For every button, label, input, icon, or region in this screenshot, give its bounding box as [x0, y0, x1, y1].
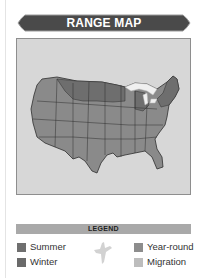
- range-map: [16, 38, 191, 195]
- winter-swatch: [17, 258, 26, 267]
- legend-header: LEGEND: [16, 224, 191, 234]
- us-map-icon: [17, 39, 192, 196]
- bird-in-flight-icon: [90, 240, 114, 266]
- legend-item-migration: Migration: [134, 257, 186, 267]
- summer-swatch: [17, 243, 26, 252]
- migration-swatch: [134, 258, 143, 267]
- legend-label: Summer: [30, 242, 66, 252]
- year-round-swatch: [134, 243, 143, 252]
- range-map-banner: RANGE MAP: [17, 14, 191, 32]
- legend-label: Winter: [30, 257, 57, 267]
- legend-label: Migration: [147, 257, 186, 267]
- legend-label: Year-round: [147, 242, 194, 252]
- legend-item-year-round: Year-round: [134, 242, 194, 252]
- legend-item-winter: Winter: [17, 257, 57, 267]
- range-map-title: RANGE MAP: [17, 14, 191, 32]
- page-divider: [5, 0, 6, 278]
- legend-item-summer: Summer: [17, 242, 66, 252]
